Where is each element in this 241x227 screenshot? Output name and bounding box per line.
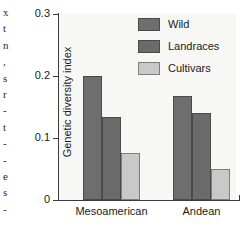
bar <box>192 113 211 200</box>
bar <box>121 153 140 200</box>
y-axis-tick-label: 0.2 <box>35 69 50 81</box>
legend-label: Wild <box>168 18 189 30</box>
legend-swatch-icon <box>138 18 160 31</box>
margin-text-fragment: x <box>0 4 9 20</box>
margin-text-fragment: - <box>0 152 7 168</box>
y-axis-tick: 0.3 <box>53 14 58 15</box>
legend-swatch-icon <box>138 40 160 53</box>
legend-item-landraces: Landraces <box>138 36 234 56</box>
y-axis-tick-mark <box>53 76 58 77</box>
legend-label: Landraces <box>168 40 219 52</box>
margin-text-fragment: r <box>0 86 7 102</box>
margin-text-fragment: , <box>0 53 6 69</box>
legend: Wild Landraces Cultivars <box>138 14 234 80</box>
legend-label: Cultivars <box>168 62 211 74</box>
margin-text-fragment: t <box>0 20 6 36</box>
y-axis-line <box>58 13 59 201</box>
y-axis-tick-mark <box>53 138 58 139</box>
margin-text-fragment: - <box>0 102 7 118</box>
bar <box>102 117 121 200</box>
y-axis-tick: 0.1 <box>53 138 58 139</box>
margin-text-fragment: e <box>0 168 8 184</box>
legend-item-wild: Wild <box>138 14 234 34</box>
legend-swatch-icon <box>138 62 160 75</box>
bar <box>211 169 230 200</box>
x-axis-line <box>58 200 240 201</box>
bar-chart: 00.10.20.3 Genetic diversity index Mesoa… <box>20 0 240 227</box>
margin-text-column: x t n , s r - t - - e s - <box>0 0 20 227</box>
y-axis-tick-label: 0.1 <box>35 131 50 143</box>
legend-item-cultivars: Cultivars <box>138 58 234 78</box>
y-axis-tick: 0.2 <box>53 76 58 77</box>
x-axis-end-tick <box>239 195 240 201</box>
y-axis-tick-mark <box>53 14 58 15</box>
bar <box>173 96 192 200</box>
y-axis-title: Genetic diversity index <box>61 47 73 158</box>
y-axis-tick-label: 0 <box>44 193 50 205</box>
margin-text-fragment: s <box>0 70 7 86</box>
y-axis-tick-label: 0.3 <box>35 7 50 19</box>
margin-text-fragment: s <box>0 184 7 200</box>
margin-text-fragment: - <box>0 201 7 217</box>
x-axis-category-label: Mesoamerican <box>67 205 157 217</box>
margin-text-fragment: t <box>0 119 6 135</box>
y-axis-tick: 0 <box>53 200 58 201</box>
margin-text-fragment: n <box>0 37 9 53</box>
y-axis-tick-mark <box>53 200 58 201</box>
margin-text-fragment: - <box>0 135 7 151</box>
bar <box>83 76 102 200</box>
x-axis-category-label: Andean <box>157 205 241 217</box>
